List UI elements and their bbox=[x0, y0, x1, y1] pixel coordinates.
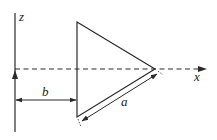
x-axis-label: x bbox=[193, 69, 200, 84]
dimension-b-label: b bbox=[42, 84, 49, 99]
extension-tick-bottom bbox=[78, 119, 81, 127]
dimension-a-label: a bbox=[121, 94, 128, 109]
diagram-canvas: z x b a bbox=[0, 0, 217, 140]
z-axis-label: z bbox=[18, 9, 24, 24]
dimension-a bbox=[82, 74, 157, 121]
extension-tick-right bbox=[158, 71, 163, 75]
x-axis bbox=[15, 66, 207, 72]
current-arrow-icon bbox=[12, 70, 18, 79]
z-axis bbox=[12, 13, 18, 132]
